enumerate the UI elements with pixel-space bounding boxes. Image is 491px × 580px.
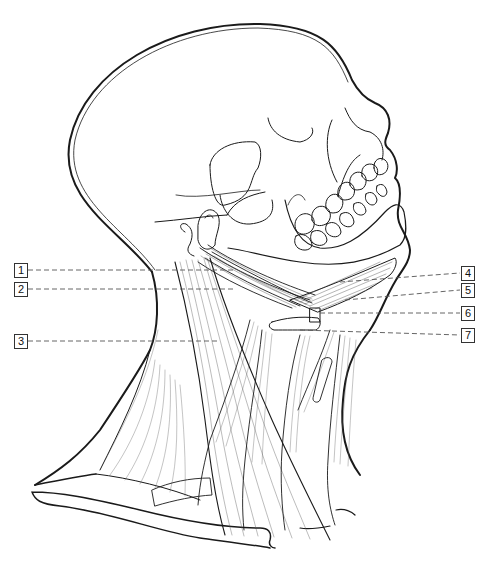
label-box-3[interactable]: 3	[14, 334, 28, 349]
mandible	[228, 200, 406, 264]
head-outline	[68, 24, 410, 330]
leader-line-7	[300, 330, 460, 335]
stylohyoid-tendon	[310, 308, 320, 322]
leader-line-5	[345, 290, 460, 300]
omohyoid-inferior	[152, 478, 212, 506]
head-neck-illustration	[0, 0, 491, 580]
label-box-6[interactable]: 6	[461, 306, 475, 321]
skull-cranium	[210, 142, 261, 206]
label-box-2[interactable]: 2	[14, 282, 28, 297]
scalene-muscles	[198, 320, 340, 530]
ear	[181, 224, 194, 256]
label-box-7[interactable]: 7	[461, 328, 475, 343]
neck-front-outline	[342, 330, 370, 475]
hyoid-bone	[269, 317, 320, 330]
label-box-5[interactable]: 5	[461, 283, 475, 298]
skull-maxilla	[327, 108, 383, 196]
label-box-4[interactable]: 4	[461, 266, 475, 281]
anatomy-figure: ————— ———— —————— ———————— —————— ———	[0, 0, 491, 580]
label-box-1[interactable]: 1	[14, 263, 28, 278]
lower-teeth	[295, 184, 387, 250]
trapezius	[96, 350, 200, 500]
neck-back-outline	[35, 272, 157, 485]
